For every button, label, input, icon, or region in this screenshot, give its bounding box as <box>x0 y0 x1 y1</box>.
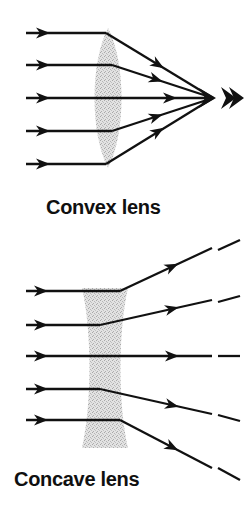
canvas-background <box>0 0 251 510</box>
convex-lens-caption: Convex lens <box>46 196 161 218</box>
lens-ray-diagram-figure: Convex lens <box>0 0 251 510</box>
lens-diagram-svg: Convex lens <box>0 0 251 510</box>
concave-lens-caption: Concave lens <box>14 468 140 490</box>
